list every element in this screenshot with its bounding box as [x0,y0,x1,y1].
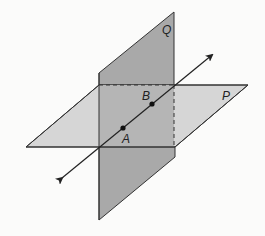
point-a [120,125,125,130]
intersecting-planes-figure: Q P A B [0,0,265,236]
label-b: B [142,89,150,103]
label-q: Q [162,23,171,37]
point-b [149,101,154,106]
label-a: A [121,132,130,146]
label-p: P [222,89,230,103]
plane-q-lower [99,147,175,220]
diagram-canvas: Q P A B [0,0,265,236]
